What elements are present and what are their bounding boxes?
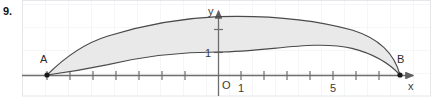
plot-area: A B x y O 1 5 1 bbox=[22, 0, 431, 97]
origin-label: O bbox=[222, 79, 231, 91]
point-b-label: B bbox=[397, 53, 404, 65]
y-tick-label-1: 1 bbox=[205, 47, 211, 59]
y-axis-label: y bbox=[208, 5, 214, 17]
x-axis-label: x bbox=[408, 80, 414, 92]
point-b-marker bbox=[397, 72, 402, 77]
x-tick-label-5: 5 bbox=[330, 82, 336, 94]
coordinate-plot: A B x y O 1 5 1 bbox=[22, 0, 431, 97]
x-tick-label-1: 1 bbox=[238, 82, 244, 94]
point-a-label: A bbox=[40, 53, 48, 65]
figure-container: 9. bbox=[0, 0, 433, 104]
problem-number: 9. bbox=[3, 5, 12, 17]
point-a-marker bbox=[44, 72, 49, 77]
